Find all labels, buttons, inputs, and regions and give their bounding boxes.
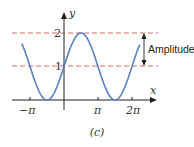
x-axis-label: x xyxy=(150,84,157,97)
tick-label-2: 2 xyxy=(54,27,61,40)
sine-curve xyxy=(22,33,140,100)
amplitude-label: Amplitude xyxy=(148,43,194,55)
sine-plot: y x 2 1 −π π 2π Amplitude xyxy=(0,0,194,147)
amplitude-arrow-up-icon xyxy=(142,33,147,39)
tick-label-1: 1 xyxy=(55,60,62,73)
y-axis-label: y xyxy=(68,7,76,20)
x-axis-arrow-icon xyxy=(150,97,157,103)
tick-label-neg-pi: −π xyxy=(19,104,36,117)
figure-caption: (c) xyxy=(0,126,194,139)
tick-label-pi: π xyxy=(93,104,102,117)
y-axis-arrow-icon xyxy=(61,12,67,19)
amplitude-arrow-down-icon xyxy=(142,60,147,66)
tick-label-2pi: 2π xyxy=(125,104,141,117)
